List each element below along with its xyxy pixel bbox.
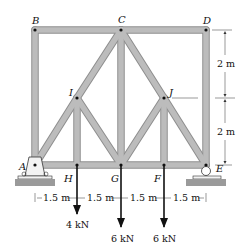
vertical-dim-upper: 2 m	[217, 58, 235, 69]
joint-j	[162, 96, 165, 99]
joint-i	[75, 96, 78, 99]
vertical-dim-lower: 2 m	[217, 126, 235, 137]
load-label-h: 4 kN	[66, 219, 89, 230]
node-label-i: I	[68, 87, 74, 98]
joint-b	[33, 28, 36, 31]
node-label-j: J	[167, 87, 174, 98]
horizontal-dim-1: 1.5 m	[43, 192, 70, 203]
node-label-h: H	[63, 173, 73, 184]
node-label-b: B	[31, 15, 39, 26]
joint-c	[119, 28, 122, 31]
joint-d	[204, 28, 207, 31]
load-label-g: 6 kN	[111, 233, 134, 244]
horizontal-dim-3: 1.5 m	[130, 192, 157, 203]
node-label-g: G	[111, 173, 119, 184]
node-label-f: F	[153, 173, 162, 184]
node-label-d: D	[202, 15, 211, 26]
node-label-c: C	[118, 14, 126, 25]
load-label-f: 6 kN	[153, 233, 176, 244]
horizontal-dim-4: 1.5 m	[173, 192, 200, 203]
horizontal-dim-2: 1.5 m	[87, 192, 114, 203]
truss-diagram: B C D I J A H G F E 2 m 2 m 1.5 m 1.5 m …	[0, 0, 247, 250]
node-label-a: A	[18, 161, 26, 172]
joint-a	[33, 163, 36, 166]
node-label-e: E	[215, 163, 224, 174]
joint-e	[204, 163, 207, 166]
